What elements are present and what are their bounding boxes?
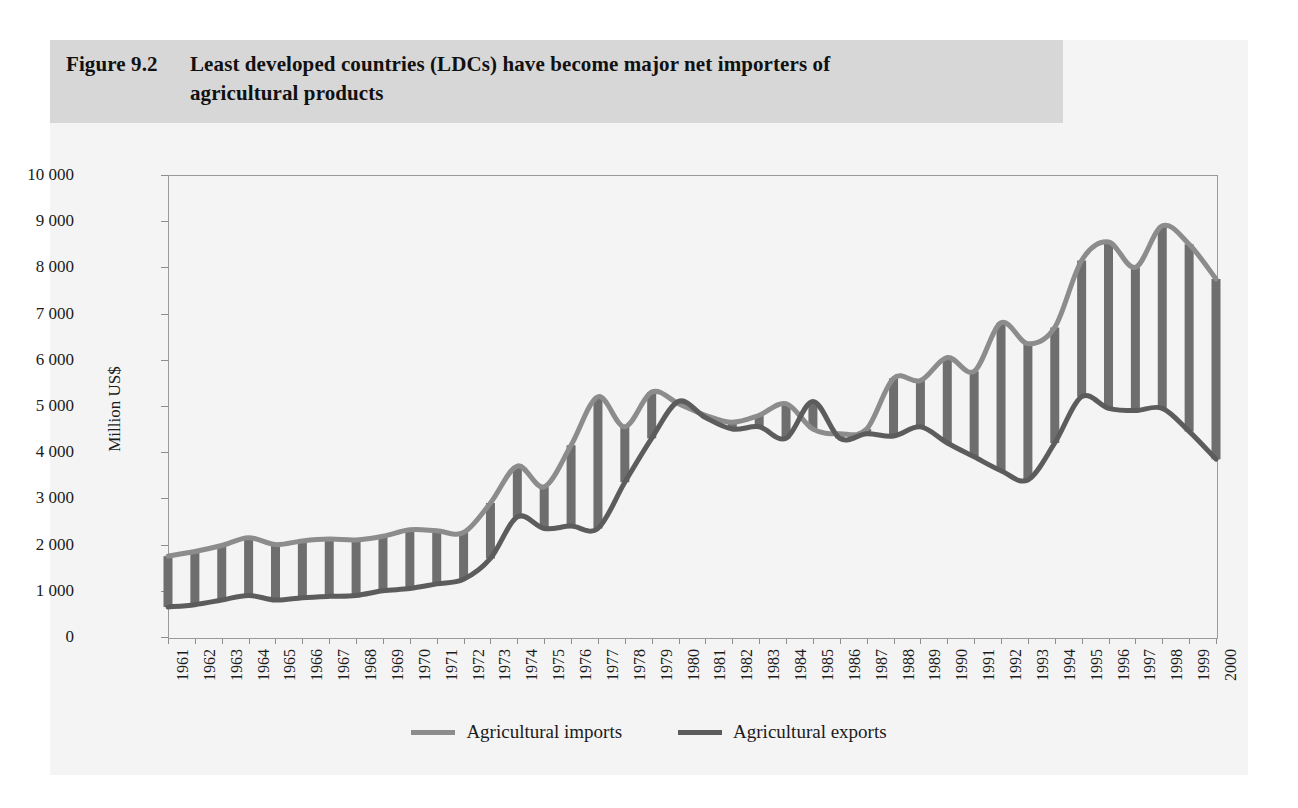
x-axis-tick-label: 1980 <box>685 649 703 681</box>
x-axis-tick-label: 1969 <box>389 649 407 681</box>
figure-card: Figure 9.2Least developed countries (LDC… <box>50 40 1248 775</box>
figure-header-text: Figure 9.2Least developed countries (LDC… <box>66 50 1053 108</box>
x-axis-tick-label: 1961 <box>174 649 192 681</box>
legend-label-exports: Agricultural exports <box>733 721 887 743</box>
x-axis-tick-label: 1973 <box>496 649 514 681</box>
band-hatch-group <box>168 226 1216 607</box>
x-axis-tick-label: 1978 <box>631 649 649 681</box>
y-axis-tick-mark <box>161 637 168 638</box>
x-axis-tick-label: 1966 <box>308 649 326 681</box>
x-axis-tick-label: 1967 <box>335 649 353 681</box>
y-axis-tick-label: 3 000 <box>36 488 74 508</box>
x-axis-tick-label: 1986 <box>846 649 864 681</box>
y-axis-tick-label: 9 000 <box>36 211 74 231</box>
x-axis-tick-label: 1963 <box>228 649 246 681</box>
y-axis-tick-label: 1 000 <box>36 581 74 601</box>
x-axis-tick-label: 1995 <box>1088 649 1106 681</box>
y-axis-tick-label: 10 000 <box>27 165 74 185</box>
x-axis-tick-label: 1987 <box>873 649 891 681</box>
x-axis-tick-label: 1979 <box>658 649 676 681</box>
legend-label-imports: Agricultural imports <box>466 721 622 743</box>
legend-swatch-imports <box>411 730 455 735</box>
y-axis-tick-mark <box>161 545 168 546</box>
chart-area: Million US$ 01 0002 0003 0004 0005 0006 … <box>50 123 1248 775</box>
x-axis-tick-label: 1982 <box>738 649 756 681</box>
figure-title-row-1: Figure 9.2Least developed countries (LDC… <box>66 50 1053 79</box>
x-axis-tick-label: 1997 <box>1141 649 1159 681</box>
x-axis-tick-label: 1970 <box>416 649 434 681</box>
y-axis-tick-label: 2 000 <box>36 535 74 555</box>
y-axis-tick-label: 6 000 <box>36 350 74 370</box>
x-axis-tick-label: 1999 <box>1195 649 1213 681</box>
y-axis-tick-label: 7 000 <box>36 304 74 324</box>
y-axis-tick-label: 8 000 <box>36 257 74 277</box>
x-axis-tick-label: 1981 <box>711 649 729 681</box>
x-axis-tick-label: 1968 <box>362 649 380 681</box>
plot-canvas <box>168 175 1218 639</box>
x-axis-tick-label: 1983 <box>765 649 783 681</box>
y-axis-tick-mark <box>161 267 168 268</box>
x-axis-tick-label: 1976 <box>577 649 595 681</box>
x-axis-tick-label: 1965 <box>281 649 299 681</box>
x-axis-tick-label: 1971 <box>443 649 461 681</box>
x-axis-tick-label: 1989 <box>926 649 944 681</box>
x-axis-tick-label: 1993 <box>1034 649 1052 681</box>
legend-item-agricultural-exports: Agricultural exports <box>678 721 887 743</box>
x-axis-tick-label: 1975 <box>550 649 568 681</box>
legend-item-agricultural-imports: Agricultural imports <box>411 721 622 743</box>
x-axis-tick-label: 1991 <box>980 649 998 681</box>
x-axis-tick-label: 2000 <box>1222 649 1240 681</box>
y-axis-tick-label: 4 000 <box>36 442 74 462</box>
chart-legend: Agricultural imports Agricultural export… <box>50 721 1248 743</box>
x-axis-tick-label: 1984 <box>792 649 810 681</box>
y-axis-tick-label: 0 <box>66 627 75 647</box>
x-axis-tick-label: 1996 <box>1115 649 1133 681</box>
y-axis-tick-mark <box>161 452 168 453</box>
y-axis-tick-mark <box>161 498 168 499</box>
y-axis-tick-mark <box>161 360 168 361</box>
legend-swatch-exports <box>678 730 722 735</box>
x-axis-tick-label: 1977 <box>604 649 622 681</box>
x-axis-tick-label: 1985 <box>819 649 837 681</box>
figure-number: Figure 9.2 <box>66 50 190 79</box>
y-axis-tick-mark <box>161 221 168 222</box>
y-axis-tick-mark <box>161 175 168 176</box>
x-axis-tick-label: 1974 <box>523 649 541 681</box>
figure-title-line-2-text: agricultural products <box>190 81 384 105</box>
figure-title-line-2: agricultural products <box>66 79 1053 108</box>
figure-header-band: Figure 9.2Least developed countries (LDC… <box>50 40 1063 123</box>
x-axis-tick-label: 1994 <box>1061 649 1079 681</box>
y-axis-title: Million US$ <box>105 366 125 452</box>
x-axis-tick-label: 1988 <box>900 649 918 681</box>
y-axis-tick-mark <box>161 314 168 315</box>
x-axis-tick-label: 1972 <box>470 649 488 681</box>
x-axis-tick-label: 1964 <box>255 649 273 681</box>
x-axis-tick-label: 1962 <box>201 649 219 681</box>
x-axis-tick-label: 1992 <box>1007 649 1025 681</box>
y-axis-tick-mark <box>161 406 168 407</box>
x-axis-tick-label: 1998 <box>1168 649 1186 681</box>
y-axis-tick-label: 5 000 <box>36 396 74 416</box>
figure-title-line-1: Least developed countries (LDCs) have be… <box>190 50 830 79</box>
x-axis-tick-label: 1990 <box>953 649 971 681</box>
